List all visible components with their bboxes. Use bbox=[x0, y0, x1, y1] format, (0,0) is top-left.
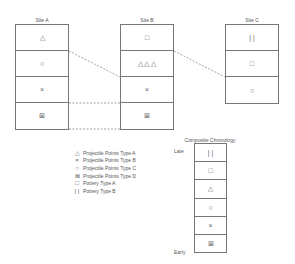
correlation-lines bbox=[0, 0, 295, 264]
legend-item: | |Pottery Type B bbox=[71, 187, 136, 195]
composite-row: × bbox=[195, 217, 226, 235]
late-label: Late bbox=[174, 148, 184, 154]
early-label: Early bbox=[174, 249, 185, 255]
legend-item: ×Projectile Points Type B bbox=[71, 157, 136, 165]
legend-item: ○Projectile Points Type C bbox=[71, 164, 136, 172]
composite-row: □ bbox=[195, 162, 226, 180]
composite-column: | | □ △ ○ × ⊠ bbox=[194, 143, 227, 253]
composite-row: △ bbox=[195, 180, 226, 198]
composite-row: ⊠ bbox=[195, 235, 226, 253]
composite-row: ○ bbox=[195, 199, 226, 217]
legend-item: △Projectile Points Type A bbox=[71, 149, 136, 157]
composite-row: | | bbox=[195, 144, 226, 162]
legend-item: □Pottery Type A bbox=[71, 179, 136, 187]
legend: △Projectile Points Type A ×Projectile Po… bbox=[71, 149, 136, 195]
legend-item: ⊠Projectile Points Type D bbox=[71, 172, 136, 180]
